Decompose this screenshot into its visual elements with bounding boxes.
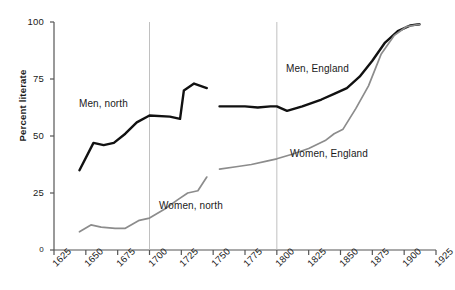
y-tick-label: 50 — [18, 130, 44, 141]
y-tick-label: 75 — [18, 73, 44, 84]
vertical-reference-lines — [150, 22, 277, 250]
series-annotation-men-england: Men, England — [286, 63, 349, 74]
y-tick-label: 0 — [18, 245, 44, 254]
series-annotation-women-north: Women, north — [159, 200, 223, 211]
y-tick-label: 25 — [18, 187, 44, 198]
series-line-men-north — [79, 84, 206, 171]
series-annotation-women-england: Women, England — [290, 148, 368, 159]
y-tick-label: 100 — [18, 16, 44, 27]
series-lines — [79, 24, 419, 231]
series-annotation-men-north: Men, north — [79, 98, 128, 109]
